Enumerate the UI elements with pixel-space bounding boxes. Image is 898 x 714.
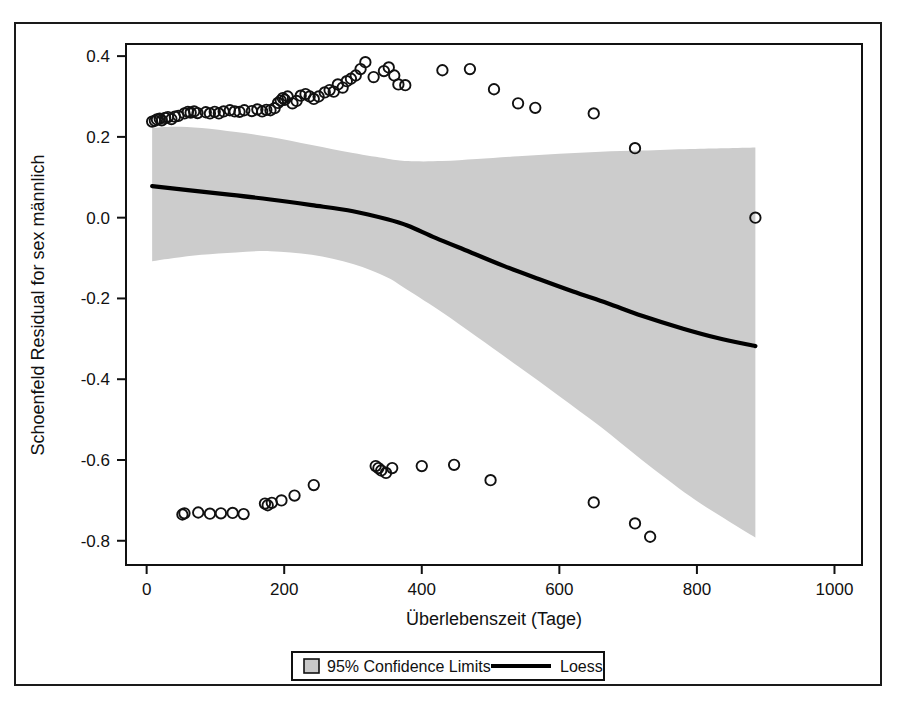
y-axis-tick-label: 0.4 xyxy=(86,47,110,66)
data-point xyxy=(530,103,540,113)
y-axis-tick-label: 0.0 xyxy=(86,209,110,228)
chart-canvas: 0.40.20.0-0.2-0.4-0.6-0.8 02004006008001… xyxy=(0,0,898,714)
y-axis-tick-label: 0.2 xyxy=(86,128,110,147)
y-axis-title: Schoenfeld Residual for sex männlich xyxy=(28,154,48,455)
data-point xyxy=(589,497,599,507)
confidence-band-swatch-icon xyxy=(304,659,319,673)
data-point xyxy=(437,65,447,75)
data-point xyxy=(205,509,215,519)
data-point xyxy=(449,460,459,470)
y-axis-tick-label: -0.4 xyxy=(81,370,110,389)
data-point xyxy=(489,84,499,94)
chart-legend: 95% Confidence Limits Loess xyxy=(292,652,604,680)
data-point xyxy=(417,461,427,471)
data-point xyxy=(216,508,226,518)
x-axis-tick-label: 1000 xyxy=(816,580,854,599)
data-point xyxy=(227,508,237,518)
x-axis-tick-label: 0 xyxy=(142,580,151,599)
y-axis-tick-label: -0.6 xyxy=(81,451,110,470)
figure-root: 0.40.20.0-0.2-0.4-0.6-0.8 02004006008001… xyxy=(0,0,898,714)
data-point xyxy=(630,518,640,528)
data-point xyxy=(309,480,319,490)
x-axis-title: Überlebenszeit (Tage) xyxy=(406,609,582,629)
data-point xyxy=(589,108,599,118)
data-point xyxy=(645,532,655,542)
y-axis: 0.40.20.0-0.2-0.4-0.6-0.8 xyxy=(81,47,126,551)
y-axis-tick-label: -0.8 xyxy=(81,532,110,551)
scatter-series-lower xyxy=(177,460,655,542)
legend-label-confidence-limits: 95% Confidence Limits xyxy=(327,658,491,675)
y-axis-tick-label: -0.2 xyxy=(81,289,110,308)
data-point xyxy=(193,507,203,517)
data-point xyxy=(513,98,523,108)
data-point xyxy=(465,64,475,74)
x-axis-tick-label: 400 xyxy=(408,580,436,599)
x-axis-tick-label: 600 xyxy=(545,580,573,599)
data-point xyxy=(400,80,410,90)
data-point xyxy=(368,72,378,82)
x-axis-tick-label: 200 xyxy=(270,580,298,599)
confidence-band xyxy=(152,127,755,538)
data-point xyxy=(485,475,495,485)
x-axis-tick-label: 800 xyxy=(683,580,711,599)
data-point xyxy=(289,490,299,500)
data-point xyxy=(276,495,286,505)
x-axis: 02004006008001000 xyxy=(142,565,853,599)
legend-label-loess: Loess xyxy=(560,658,603,675)
data-point xyxy=(238,509,248,519)
